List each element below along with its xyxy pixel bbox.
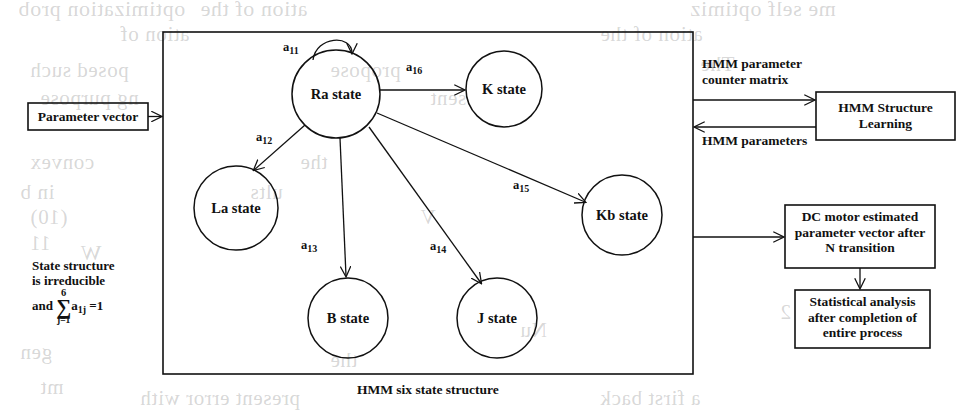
- transition-label-a12: a12: [256, 130, 272, 146]
- edge-a15-ra-to-kb: [377, 113, 585, 202]
- diagram-caption: HMM six state structure: [357, 382, 499, 398]
- transition-label-a11: a11: [283, 40, 299, 56]
- dc-motor-label: DC motor estimated parameter vector afte…: [785, 209, 935, 256]
- summation-operator: 6 ∑ j=1: [56, 288, 71, 326]
- note-equals: =1: [89, 298, 103, 313]
- transition-sub-a14: 14: [436, 244, 446, 255]
- hmm-structure-learning-line2: Learning: [859, 116, 912, 131]
- dc-motor-line1: DC motor estimated: [802, 209, 919, 224]
- statistical-analysis-label: Statistical analysis after completion of…: [795, 294, 930, 341]
- statistical-analysis-line2: after completion of: [808, 310, 917, 325]
- state-structure-note: State structure is irreducible and 6 ∑ j…: [32, 258, 167, 326]
- transition-label-a13: a13: [301, 238, 317, 254]
- parameter-vector-label: Parameter vector: [28, 109, 148, 125]
- flow-label-hmm-parameters: HMM parameters: [702, 133, 862, 149]
- dc-motor-line3: N transition: [825, 240, 894, 255]
- state-label-k: K state: [459, 81, 549, 98]
- hmm-structure-learning-label: HMM Structure Learning: [816, 100, 955, 131]
- state-label-kb: Kb state: [577, 207, 667, 224]
- transition-sub-a11: 11: [289, 45, 298, 56]
- statistical-analysis-line1: Statistical analysis: [809, 294, 915, 309]
- transition-sub-a15: 15: [519, 183, 529, 194]
- sigma-icon: ∑: [56, 299, 71, 317]
- summation-lower-limit: j=1: [56, 316, 71, 326]
- note-line2: is irreducible: [32, 273, 105, 288]
- hmm-structure-learning-line1: HMM Structure: [838, 100, 933, 115]
- note-line1: State structure: [32, 258, 114, 273]
- note-and: and: [32, 298, 53, 313]
- transition-sub-a13: 13: [307, 243, 317, 254]
- note-term-sub: 1j: [78, 304, 86, 315]
- diagram-canvas: optimization probation of theme self opt…: [0, 0, 966, 411]
- transition-label-a15: a15: [513, 178, 529, 194]
- flow-label-counter-matrix: HMM parameter counter matrix: [702, 56, 832, 87]
- transition-sub-a16: 16: [412, 65, 422, 76]
- transition-label-a16: a16: [406, 60, 422, 76]
- state-label-la: La state: [191, 200, 281, 217]
- transition-sub-a12: 12: [262, 135, 272, 146]
- transition-label-a14: a14: [430, 239, 446, 255]
- counter-matrix-line1: HMM parameter: [702, 56, 802, 71]
- statistical-analysis-line3: entire process: [823, 325, 902, 340]
- dc-motor-line2: parameter vector after: [795, 225, 926, 240]
- counter-matrix-line2: counter matrix: [702, 72, 788, 87]
- edge-a13-ra-to-b: [340, 138, 346, 276]
- state-label-b: B state: [303, 310, 393, 327]
- state-label-ra: Ra state: [286, 86, 386, 103]
- state-label-j: J state: [452, 310, 542, 327]
